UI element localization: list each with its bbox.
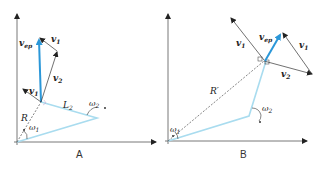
label-R: R — [20, 113, 28, 123]
omega1-arc — [24, 131, 27, 139]
label-v2: v2 — [53, 73, 62, 84]
label-v2: v2 — [281, 69, 290, 80]
omega2-dot — [259, 121, 261, 123]
label-v1-top: v1 — [51, 34, 60, 45]
label-v1-right: v1 — [299, 40, 308, 51]
label-omega2: ω2 — [262, 104, 273, 114]
label-omega1: ω1 — [29, 123, 39, 133]
panel-b: vep v1 v1 v2 R′ ω1 ω2 B — [165, 14, 312, 160]
v1-right-vector — [283, 33, 312, 74]
caption-b: B — [240, 149, 247, 160]
v-ep-vector — [39, 40, 41, 102]
omega1-dot — [172, 135, 174, 137]
panel-a: vep v1 v2 v1 L2 R ω1 ω2 A — [14, 14, 156, 160]
label-v1-left: v1 — [236, 38, 245, 49]
label-omega1: ω1 — [170, 125, 180, 135]
omega1-dot — [23, 129, 25, 131]
label-v-ep: vep — [19, 38, 33, 50]
label-v1-left: v1 — [29, 86, 38, 97]
label-omega2: ω2 — [89, 99, 100, 109]
radius-line — [168, 61, 264, 141]
arm-links — [17, 102, 97, 142]
diagram-canvas: vep v1 v2 v1 L2 R ω1 ω2 A — [0, 0, 326, 169]
label-R-prime: R′ — [209, 86, 219, 96]
omega2-arc — [252, 108, 261, 121]
omega2-dot — [104, 107, 106, 109]
label-v-ep: vep — [259, 32, 273, 44]
label-L2: L2 — [62, 100, 73, 111]
right-angle-marker — [258, 57, 262, 61]
caption-a: A — [76, 149, 83, 160]
